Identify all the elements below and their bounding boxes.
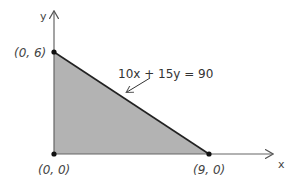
vertex-point-9-0 [206,151,211,156]
y-axis-label: y [40,10,47,23]
vertex-point-0-6 [51,49,56,54]
diagram-canvas: y x (0, 6) (0, 0) (9, 0) 10x + 15y = 90 [0,0,300,189]
vertex-label-0-0: (0, 0) [38,163,70,177]
vertex-label-0-6: (0, 6) [14,46,46,60]
vertex-label-9-0: (9, 0) [193,163,225,177]
constraint-equation-label: 10x + 15y = 90 [118,67,213,81]
x-axis-label: x [278,158,285,171]
vertex-point-0-0 [51,151,56,156]
